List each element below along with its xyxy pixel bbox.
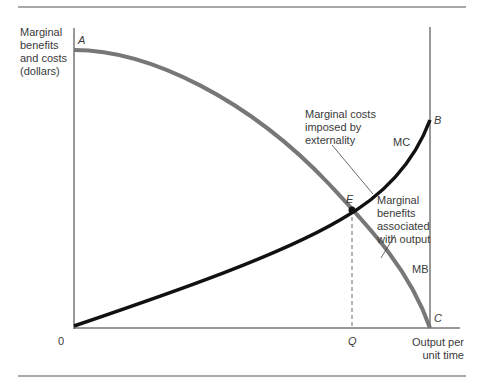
diagram-canvas xyxy=(0,0,484,380)
mc-curve-label: MC xyxy=(393,136,410,149)
point-c-label: C xyxy=(434,312,442,325)
benefits-annotation: Marginal benefits associated with output xyxy=(377,194,430,246)
point-b-label: B xyxy=(434,114,441,127)
mb-curve xyxy=(74,50,430,328)
q-label: Q xyxy=(348,335,357,348)
point-a-label: A xyxy=(78,34,85,47)
externality-leader-line xyxy=(332,145,373,194)
x-axis-label: Output per unit time xyxy=(412,336,464,362)
mb-curve-label: MB xyxy=(412,263,429,276)
y-axis-label: Marginal benefits and costs (dollars) xyxy=(20,26,67,78)
equilibrium-point xyxy=(349,207,356,214)
externality-annotation: Marginal costs imposed by externality xyxy=(305,108,376,147)
point-e-label: E xyxy=(346,193,353,206)
origin-label: 0 xyxy=(58,335,64,348)
